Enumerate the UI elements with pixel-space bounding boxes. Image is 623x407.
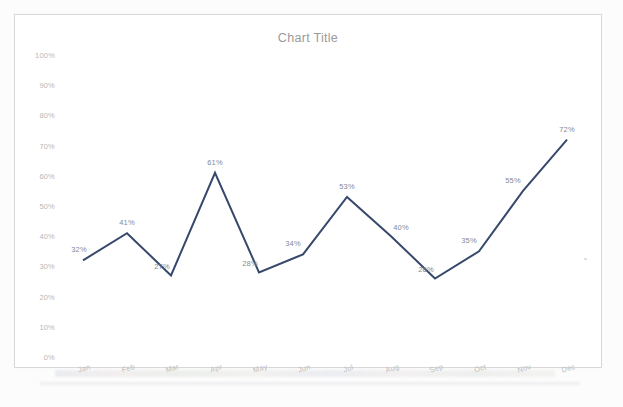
data-point-label: 41%: [119, 218, 135, 227]
data-point-label: 40%: [393, 223, 409, 232]
data-point-label: 32%: [71, 245, 87, 254]
y-axis-tick-label: 100%: [35, 51, 55, 60]
y-axis-tick-label: 20%: [39, 292, 55, 301]
data-point-label: 55%: [505, 176, 521, 185]
scan-artifact-band-secondary: [40, 382, 580, 385]
y-axis-tick-label: 0%: [44, 353, 55, 362]
y-axis-tick-label: 30%: [39, 262, 55, 271]
y-axis-tick-label: 10%: [39, 322, 55, 331]
data-point-label: 34%: [285, 239, 301, 248]
y-axis-tick-label: 80%: [39, 111, 55, 120]
chart-frame: Chart Title 0%10%20%30%40%50%60%70%80%90…: [14, 14, 602, 368]
data-point-label: 35%: [461, 236, 477, 245]
y-axis-tick-label: 40%: [39, 232, 55, 241]
y-axis-tick-label: 90%: [39, 81, 55, 90]
scan-speck: [584, 258, 587, 260]
scan-artifact-band: [55, 370, 555, 377]
data-point-label: 61%: [207, 158, 223, 167]
y-axis-tick-label: 60%: [39, 171, 55, 180]
line-series-path: [83, 140, 567, 279]
scanned-page: Chart Title 0%10%20%30%40%50%60%70%80%90…: [0, 0, 623, 407]
data-point-label: 27%: [154, 262, 170, 271]
data-point-label: 26%: [418, 265, 434, 274]
y-axis-tick-label: 50%: [39, 202, 55, 211]
data-point-label: 53%: [339, 182, 355, 191]
data-point-label: 28%: [242, 259, 258, 268]
chart-title: Chart Title: [15, 31, 601, 45]
plot-area: 0%10%20%30%40%50%60%70%80%90%100% JanFeb…: [61, 55, 589, 357]
y-axis-tick-label: 70%: [39, 141, 55, 150]
x-axis-tick-label: Dec: [560, 362, 576, 374]
line-series-svg: [61, 55, 589, 357]
data-point-label: 72%: [559, 125, 575, 134]
